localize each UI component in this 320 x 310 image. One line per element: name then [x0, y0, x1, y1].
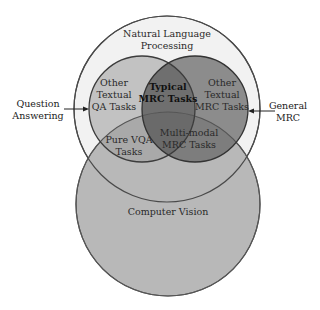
multimodal-mrc-label-line1: Multi-modal	[160, 127, 218, 138]
mrc-label-line3: MRC Tasks	[195, 101, 249, 112]
question-answering-label-line1: Question	[16, 98, 59, 109]
nlp-label-line1: Natural Language	[123, 28, 211, 39]
mrc-label-line1: Other	[208, 77, 236, 88]
general-mrc-label-line1: General	[269, 100, 307, 111]
qa-label-line1: Other	[100, 77, 128, 88]
mrc-label-line2: Textual	[204, 89, 239, 100]
general-mrc-label-line2: MRC	[276, 112, 300, 123]
pure-vqa-label-line1: Pure VQA	[105, 134, 152, 145]
cv-label: Computer Vision	[128, 206, 209, 217]
question-answering-label-line2: Answering	[11, 110, 63, 121]
typical-mrc-label-line1: Typical	[149, 81, 187, 92]
nlp-label-line2: Processing	[141, 40, 194, 51]
multimodal-mrc-label-line2: MRC Tasks	[162, 139, 216, 150]
qa-label-line2: Textual	[96, 89, 131, 100]
venn-diagram: Natural Language Processing Other Textua…	[0, 0, 320, 310]
typical-mrc-label-line2: MRC Tasks	[139, 93, 198, 104]
qa-label-line3: QA Tasks	[92, 101, 137, 112]
pure-vqa-label-line2: Tasks	[116, 146, 143, 157]
